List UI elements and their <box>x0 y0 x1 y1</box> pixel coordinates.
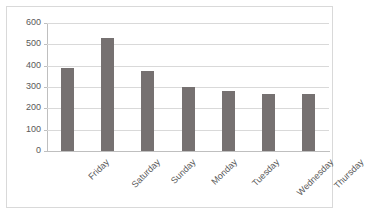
gridline <box>47 151 329 152</box>
bar[interactable] <box>302 94 315 151</box>
axis-tick-mark <box>44 151 47 152</box>
value-axis-labels: 0100200300400500600 <box>7 23 41 151</box>
gridline <box>47 44 329 45</box>
category-axis-tick-label: Sunday <box>169 157 198 186</box>
axis-tick-mark <box>44 44 47 45</box>
value-axis-tick-label: 400 <box>26 61 41 70</box>
value-axis-tick-label: 0 <box>36 146 41 155</box>
category-axis-tick-label: Tuesday <box>250 157 281 188</box>
bar[interactable] <box>61 68 74 151</box>
axis-tick-mark <box>44 87 47 88</box>
bar[interactable] <box>222 91 235 151</box>
category-axis-tick-label: Friday <box>86 157 111 182</box>
category-axis-tick-label: Wednesday <box>294 157 335 198</box>
axis-tick-mark <box>44 130 47 131</box>
value-axis-tick-label: 100 <box>26 125 41 134</box>
value-axis-tick-label: 300 <box>26 82 41 91</box>
axis-tick-mark <box>44 66 47 67</box>
axis-tick-mark <box>44 108 47 109</box>
plot-area <box>47 23 329 151</box>
chart-frame: 0100200300400500600 FridaySaturdaySunday… <box>6 6 333 208</box>
bar[interactable] <box>182 87 195 151</box>
category-axis-labels: FridaySaturdaySundayMondayTuesdayWednesd… <box>47 153 329 209</box>
bar[interactable] <box>141 71 154 151</box>
gridline <box>47 66 329 67</box>
axis-tick-mark <box>44 23 47 24</box>
category-axis-tick-label: Monday <box>209 157 239 187</box>
category-axis-tick-label: Saturday <box>130 157 163 190</box>
gridline <box>47 23 329 24</box>
bar[interactable] <box>101 38 114 151</box>
value-axis-tick-label: 200 <box>26 103 41 112</box>
category-axis-tick-label: Thursday <box>332 157 365 191</box>
value-axis-tick-label: 500 <box>26 39 41 48</box>
value-axis-tick-label: 600 <box>26 18 41 27</box>
bar[interactable] <box>262 94 275 151</box>
